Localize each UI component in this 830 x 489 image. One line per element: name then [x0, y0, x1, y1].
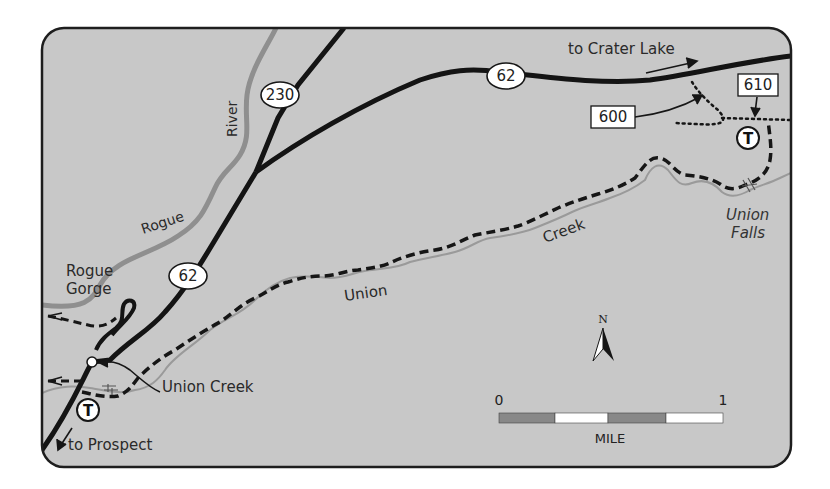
- highway-shield-62-south[interactable]: 62: [169, 263, 207, 289]
- trail-marker-600[interactable]: 600: [591, 106, 635, 128]
- union-falls-label-line1: Union: [726, 206, 769, 224]
- highway-shield-62-north[interactable]: 62: [487, 63, 525, 89]
- trailhead-icon-west[interactable]: T: [77, 399, 99, 421]
- union-creek-place-label: Union Creek: [162, 378, 254, 396]
- shield-label: 62: [496, 67, 515, 85]
- union-creek-village-node: [87, 357, 97, 367]
- shield-label: 230: [266, 86, 295, 104]
- highway-shield-230[interactable]: 230: [261, 82, 299, 108]
- scale-unit-label: MILE: [595, 431, 626, 446]
- rogue-gorge-label-line1: Rogue: [66, 262, 113, 280]
- trail-number-label: 600: [599, 108, 628, 126]
- trail-marker-610[interactable]: 610: [738, 74, 778, 96]
- rogue-gorge-label-line2: Gorge: [66, 280, 111, 298]
- to-crater-lake-label: to Crater Lake: [568, 40, 675, 58]
- union-falls-label-line2: Falls: [731, 224, 765, 242]
- shield-label: 62: [178, 267, 197, 285]
- trail-map: 230 62 62 610 600 T T to Crater Lake to …: [0, 0, 830, 489]
- scale-start-label: 0: [495, 392, 504, 408]
- trailhead-letter: T: [743, 130, 754, 148]
- scale-end-label: 1: [719, 392, 728, 408]
- north-label: N: [598, 313, 608, 326]
- trailhead-letter: T: [83, 402, 94, 420]
- rogue-river-label-word2: River: [224, 100, 240, 137]
- trail-number-label: 610: [744, 76, 773, 94]
- to-prospect-label: to Prospect: [68, 436, 152, 454]
- trailhead-icon-east[interactable]: T: [737, 127, 759, 149]
